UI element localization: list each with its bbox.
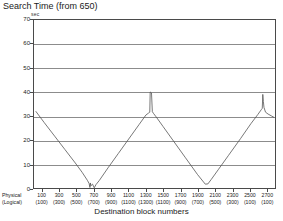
y-axis-unit-label: sec [31,11,39,17]
x-axis-row-header-logical: (Logical) [2,199,22,205]
x-axis-tick-label-logical: (100) [256,199,278,205]
y-axis-tick-label: 20 [14,137,30,143]
y-axis-tick-label: 60 [14,40,30,46]
chart-root: Search Time (from 650) sec 0102030405060… [0,0,283,221]
y-axis-tick-label: 30 [14,113,30,119]
y-axis-tick-label: 50 [14,65,30,71]
y-axis-tick-label: 10 [14,162,30,168]
x-axis-row-header-physical: Physical [2,192,21,198]
x-axis-title: Destination block numbers [0,207,283,217]
y-axis-tick-mark [30,189,33,190]
series-line [34,20,275,188]
y-axis-tick-label: 40 [14,89,30,95]
plot-area [33,19,276,189]
y-axis-tick-label: 70 [14,16,30,22]
chart-title: Search Time (from 650) [3,1,98,12]
x-axis-tick-label-physical: 2700 [256,192,278,198]
